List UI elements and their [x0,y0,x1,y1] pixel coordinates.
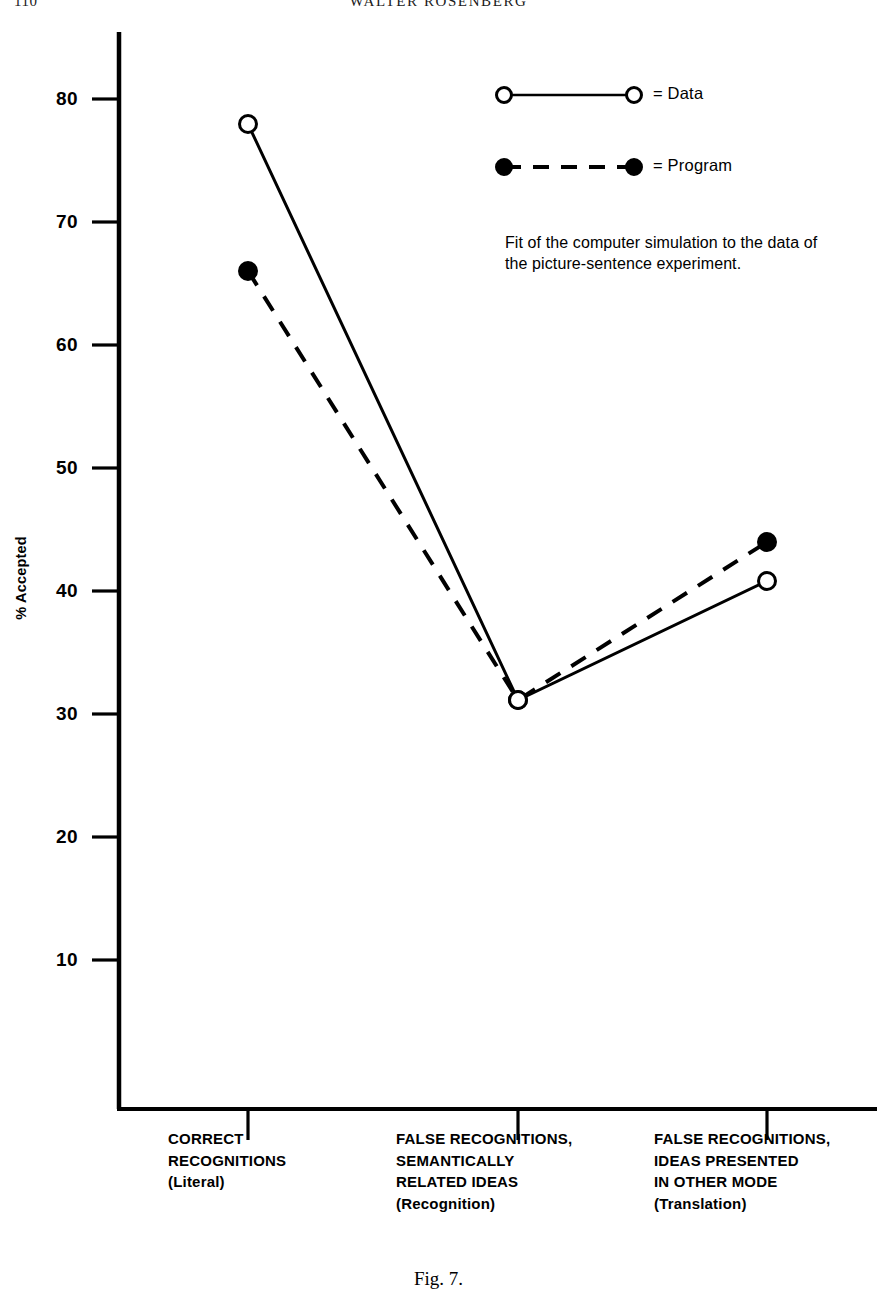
plot-area [0,0,877,1302]
x-category-1-line2: RECOGNITIONS [168,1150,286,1172]
open-circle-icon [240,116,257,133]
x-category-3-line3: IN OTHER MODE [654,1171,830,1193]
x-category-3-line2: IDEAS PRESENTED [654,1150,830,1172]
legend-item-program: = Program [493,154,793,186]
legend-sample-program [493,154,648,180]
legend-item-data: = Data [493,82,793,114]
open-circle-icon [497,88,512,103]
figure-note: Fit of the computer simulation to the da… [505,232,835,274]
x-category-label-2: FALSE RECOGNITIONS, SEMANTICALLY RELATED… [396,1128,572,1214]
y-axis-ticks [92,99,118,960]
filled-circle-icon [758,533,776,551]
x-category-label-3: FALSE RECOGNITIONS, IDEAS PRESENTED IN O… [654,1128,830,1214]
x-category-2-line3: RELATED IDEAS [396,1171,572,1193]
chart-legend: = Data = Program [493,82,793,186]
series-data [240,116,776,709]
legend-label-program: = Program [653,156,732,175]
figure-7: % Accepted 80 70 60 50 40 30 20 10 [0,0,877,1302]
open-circle-icon [627,88,642,103]
program-line [248,271,767,700]
open-circle-icon [759,573,776,590]
x-category-3-line4: (Translation) [654,1193,830,1215]
x-category-1-line3: (Literal) [168,1171,286,1193]
legend-label-data: = Data [653,84,703,103]
x-category-1-line1: CORRECT [168,1128,286,1150]
series-program [239,262,776,709]
open-circle-icon [510,692,527,709]
filled-circle-icon [496,159,512,175]
x-category-2-line2: SEMANTICALLY [396,1150,572,1172]
x-category-2-line1: FALSE RECOGNITIONS, [396,1128,572,1150]
legend-sample-data [493,82,648,108]
data-line [248,124,767,700]
figure-number: Fig. 7. [0,1268,877,1290]
x-category-3-line1: FALSE RECOGNITIONS, [654,1128,830,1150]
filled-circle-icon [239,262,257,280]
x-category-label-1: CORRECT RECOGNITIONS (Literal) [168,1128,286,1193]
x-category-2-line4: (Recognition) [396,1193,572,1215]
filled-circle-icon [626,159,642,175]
